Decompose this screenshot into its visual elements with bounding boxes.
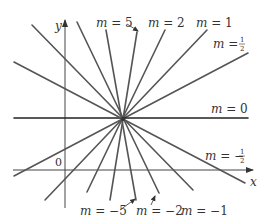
label-m-neg-half: m = − (205, 149, 244, 163)
label-m-2: m = 2 (148, 16, 185, 30)
label-m-5: m = 5 (96, 16, 133, 30)
label-m-0: m = 0 (211, 102, 248, 116)
label-m-half: m = (213, 37, 238, 51)
origin-label: 0 (55, 156, 62, 169)
common-point (121, 117, 125, 121)
label-m-neg-2: m = −2 (136, 204, 183, 218)
label-m-neg-1: m = −1 (181, 204, 228, 218)
x-axis-label: x (250, 175, 257, 189)
line-slope-neg-2 (77, 22, 159, 193)
line-slope-1 (45, 30, 207, 200)
label-m-neg-half-num: 1 (240, 148, 244, 156)
label-m-1: m = 1 (196, 16, 233, 30)
label-m-half-den: 2 (240, 45, 244, 53)
label-m-neg-half-den: 2 (240, 157, 244, 165)
slope-family-diagram: y x 0 m = 5 m = 2 m = 1 m = 1 2 m = 0 m … (0, 0, 266, 221)
label-m-half-num: 1 (240, 36, 244, 44)
line-slope-2 (87, 30, 165, 192)
label-m-neg-5: m = −5 (80, 204, 127, 218)
y-axis-label: y (54, 19, 62, 33)
